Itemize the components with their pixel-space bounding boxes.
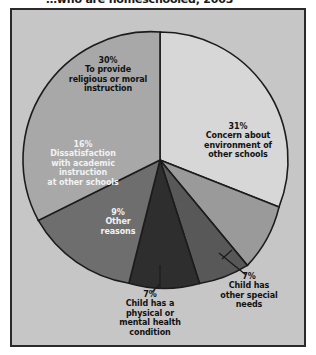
slice-label-other-special-needs: 7% Child has other special needs [200,272,298,310]
slice-text-physical-mental-health-line3: mental health [119,318,181,327]
slice-text-other-special-needs-line3: needs [236,300,263,309]
slice-text-physical-mental-health-line2: physical or [126,309,174,318]
slice-text-physical-mental-health-line4: condition [129,328,170,337]
slice-text-dissatisfaction-academic-line2: with academic [51,159,115,168]
screenshot-root: …who are homeschooled, 2003 [0,0,316,355]
slice-text-dissatisfaction-academic-line1: Dissatisfaction [50,149,116,158]
slice-text-dissatisfaction-academic-line3: instruction [59,168,107,177]
slice-text-concern-environment-line2: environment of [204,141,272,150]
slice-percent-dissatisfaction-academic: 16% [24,140,142,149]
slice-text-religious-moral-line3: instruction [84,84,132,93]
slice-label-other-reasons: 9% Other reasons [86,208,150,236]
slice-label-physical-mental-health: 7% Child has a physical or mental health… [98,290,202,337]
slice-percent-physical-mental-health: 7% [98,290,202,299]
slice-label-dissatisfaction-academic: 16% Dissatisfaction with academic instru… [24,140,142,187]
slice-percent-religious-moral: 30% [48,56,168,65]
slice-text-concern-environment-line1: Concern about [206,131,271,140]
slice-text-dissatisfaction-academic-line4: at other schools [47,178,118,187]
slice-text-religious-moral-line1: To provide [85,65,131,74]
pie-chart: 30% To provide religious or moral instru… [0,0,316,355]
slice-text-physical-mental-health-line1: Child has a [126,299,175,308]
slice-text-religious-moral-line2: religious or moral [69,75,147,84]
slice-percent-concern-environment: 31% [186,122,290,131]
slice-text-other-reasons-line1: Other [105,217,130,226]
slice-percent-other-reasons: 9% [86,208,150,217]
slice-text-other-special-needs-line1: Child has [229,281,270,290]
slice-text-other-special-needs-line2: other special [220,291,277,300]
slice-text-concern-environment-line3: other schools [208,150,268,159]
slice-percent-other-special-needs: 7% [200,272,298,281]
slice-text-other-reasons-line2: reasons [101,227,136,236]
slice-label-religious-moral: 30% To provide religious or moral instru… [48,56,168,94]
slice-label-concern-environment: 31% Concern about environment of other s… [186,122,290,160]
